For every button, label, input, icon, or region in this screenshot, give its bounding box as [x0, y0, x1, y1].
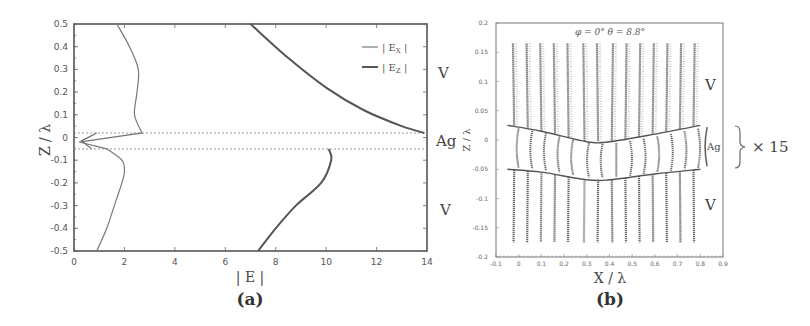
y-tick-label: 0.05	[475, 107, 489, 114]
y-tick-label: -0.5	[50, 246, 68, 256]
x-tick-label: 0.3	[582, 260, 592, 267]
field-vector-ag	[671, 134, 673, 171]
field-vector-lower	[680, 171, 681, 242]
field-vector-upper	[639, 43, 640, 136]
y-tick-labels-a: 0.50.40.30.20.10-0.1-0.2-0.3-0.4-0.5	[50, 19, 68, 256]
x-tick-label: 0.7	[673, 260, 683, 267]
y-tick-label: -0.4	[50, 223, 68, 233]
field-vector-ag	[544, 133, 546, 170]
x-tick-label: 6	[222, 257, 228, 267]
legend-a: | EX | | EZ |	[362, 42, 407, 75]
field-vector-lower	[584, 179, 585, 242]
field-vector-lower	[541, 172, 542, 242]
x-tick-label: -0.1	[490, 260, 502, 267]
x-tick-label: 10	[320, 257, 332, 267]
field-vector-lower	[639, 176, 640, 242]
field-vector-upper	[693, 43, 694, 126]
field-vector-shade	[600, 43, 601, 141]
field-vector-shade	[669, 43, 670, 131]
legend-label-ex: | EX |	[382, 42, 407, 55]
x-tick-label: 0.6	[650, 260, 660, 267]
legend-label-ez: | EZ |	[382, 62, 407, 75]
x-tick-label: 14	[421, 257, 433, 267]
y-tick-label: -0.3	[50, 201, 68, 211]
y-tick-label: 0.1	[478, 78, 488, 85]
axis-ticks-a	[74, 24, 427, 251]
field-vector-upper	[666, 43, 667, 131]
x-tick-label: 0.1	[537, 260, 547, 267]
x-tick-label: 0	[71, 257, 77, 267]
x-tick-labels-a: 02468101214	[71, 257, 433, 267]
x-tick-label: 0.5	[627, 260, 637, 267]
field-vector-lower	[514, 170, 515, 243]
field-vector-shade	[628, 43, 629, 139]
y-tick-label: -0.05	[472, 165, 488, 172]
y-tick-label: -0.1	[50, 155, 68, 165]
ag-interface-bottom	[507, 169, 700, 180]
y-tick-label: 0.2	[54, 87, 68, 97]
y-tick-label: 0.15	[475, 48, 489, 55]
field-vector-shade	[543, 43, 544, 131]
curve-ez-lower	[258, 149, 331, 251]
field-vector-shade	[557, 43, 558, 134]
field-vector-ag	[587, 143, 589, 177]
field-vectors	[513, 43, 707, 242]
field-vector-shade	[570, 43, 571, 137]
field-vector-lower	[568, 177, 569, 243]
x-axis-label-b: X / λ	[594, 270, 627, 286]
field-vector-shade	[696, 43, 697, 126]
x-tick-label: 0.2	[559, 260, 569, 267]
y-tick-label: 0	[62, 133, 68, 143]
panel-a: 0.50.40.30.20.10-0.1-0.2-0.3-0.4-0.5 024…	[37, 19, 457, 309]
y-tick-label: 0.3	[54, 64, 68, 74]
brace-icon	[735, 126, 745, 168]
y-tick-label: -0.2	[476, 253, 488, 260]
field-vector-shade	[586, 43, 587, 141]
y-tick-label: 0.1	[54, 110, 68, 120]
field-vector-ag	[530, 131, 532, 169]
curve-ez-upper	[251, 24, 425, 133]
scale-annotation: × 15	[752, 138, 788, 156]
field-vector-shade	[656, 43, 657, 134]
x-tick-label: 0	[517, 260, 521, 267]
y-tick-label: -0.15	[472, 224, 488, 231]
field-vector-lower	[612, 179, 613, 242]
field-vector-upper	[612, 43, 613, 141]
field-vector-ag	[517, 129, 519, 168]
panel-label-b: (b)	[596, 289, 624, 309]
y-tick-label: 0.2	[478, 19, 488, 26]
y-tick-label: 0	[484, 136, 488, 143]
field-vector-upper	[540, 43, 541, 131]
field-vector-upper	[567, 43, 568, 137]
field-vector-lower	[653, 174, 654, 242]
field-vector-shade	[530, 43, 531, 128]
y-tick-label: 0.5	[54, 19, 68, 29]
plot-frame-a	[74, 24, 427, 251]
region-label-v-top-b: V	[704, 76, 717, 94]
region-label-v-bottom-b: V	[704, 196, 717, 214]
field-vector-upper	[554, 43, 555, 134]
field-vector-upper	[680, 43, 681, 129]
field-vector-ag	[630, 141, 632, 176]
field-vector-shade	[516, 43, 517, 126]
field-vector-lower	[693, 170, 694, 242]
x-tick-label: 0.9	[718, 260, 728, 267]
y-tick-label: 0.4	[54, 42, 69, 52]
field-vector-lower	[666, 173, 667, 243]
field-vector-upper	[625, 43, 626, 139]
chart-title-b: φ = 0° θ = 8.8°	[575, 27, 645, 37]
panel-b: 0.20.150.10.050-0.05-0.1-0.15-0.2 -0.100…	[461, 19, 788, 309]
region-label-ag-a: Ag	[435, 132, 457, 150]
y-tick-labels-b: 0.20.150.10.050-0.05-0.1-0.15-0.2	[472, 19, 488, 260]
field-vector-lower	[554, 174, 555, 242]
field-vector-shade	[615, 43, 616, 141]
region-label-ag-b: Ag	[706, 141, 721, 152]
field-vector-lower	[598, 180, 599, 243]
axis-ticks-b	[496, 23, 723, 257]
panel-label-a: (a)	[236, 289, 263, 309]
region-label-v-bottom-a: V	[439, 201, 452, 219]
x-tick-label: 4	[172, 257, 178, 267]
field-vector-shade	[642, 43, 643, 136]
x-axis-label-a: | E |	[236, 269, 265, 286]
field-vector-upper	[513, 43, 514, 126]
